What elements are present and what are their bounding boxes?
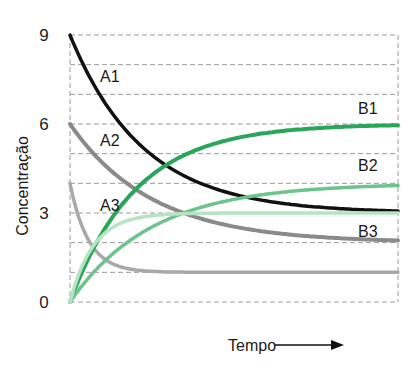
label-a3: A3 <box>100 197 120 214</box>
y-tick-label: 9 <box>39 26 48 45</box>
label-b3: B3 <box>358 223 378 240</box>
label-b2: B2 <box>358 157 378 174</box>
label-b1: B1 <box>358 100 378 117</box>
x-axis-label: Tempo <box>228 337 276 354</box>
label-a1: A1 <box>100 68 120 85</box>
label-a2: A2 <box>100 132 120 149</box>
y-tick-label: 6 <box>39 115 48 134</box>
x-axis-arrow-icon <box>275 340 344 350</box>
y-axis-ticks: 9630 <box>39 26 48 312</box>
y-axis-label: Concentração <box>14 136 31 236</box>
y-tick-label: 3 <box>39 204 48 223</box>
concentration-time-chart: 9630 A1A2A3B1B2B3 Concentração Tempo <box>0 0 420 379</box>
curve-a1 <box>70 35 398 211</box>
y-tick-label: 0 <box>39 293 48 312</box>
